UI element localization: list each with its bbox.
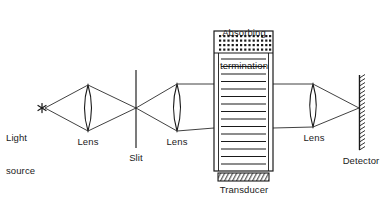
- label-absorbing-line1: Absorbing: [207, 27, 281, 38]
- transducer-icon: [218, 173, 269, 181]
- label-lens-3: Lens: [296, 132, 332, 143]
- label-transducer: Transducer: [212, 184, 276, 195]
- diagram-canvas: Light source Lens Slit Lens Absorbing te…: [0, 0, 385, 200]
- label-lens-1: Lens: [70, 136, 106, 147]
- label-absorbing-line2: termination: [207, 60, 281, 71]
- label-light-source-line2: source: [6, 165, 35, 176]
- light-source-icon: [38, 104, 46, 113]
- lens-2-icon: [174, 84, 181, 131]
- label-absorbing-termination: Absorbing termination: [207, 5, 281, 93]
- label-detector: Detector: [337, 155, 385, 166]
- detector-icon: [360, 75, 366, 151]
- acousto-optic-diagram: [0, 0, 385, 200]
- lens-1-icon: [85, 85, 92, 131]
- lens-3-icon: [310, 84, 317, 127]
- beam-segment-lens1-to-slit: [88, 85, 136, 131]
- label-lens-2: Lens: [159, 136, 195, 147]
- label-light-source: Light source: [6, 110, 35, 198]
- beam-segment-source-to-lens1: [45, 85, 88, 131]
- beam-segment-slit-to-lens2: [136, 84, 177, 131]
- label-slit: Slit: [118, 152, 154, 163]
- beam-segment-lens3-to-detector: [313, 84, 359, 127]
- label-light-source-line1: Light: [6, 132, 35, 143]
